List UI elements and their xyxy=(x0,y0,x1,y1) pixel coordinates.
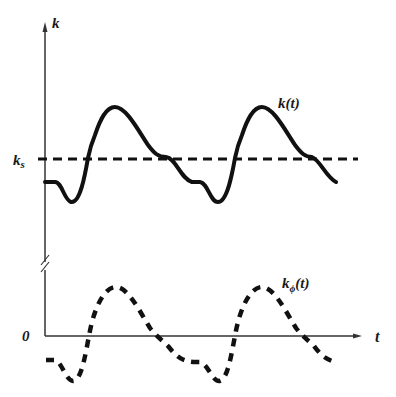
y-axis-arrow xyxy=(43,22,48,32)
k-phi-t-curve xyxy=(46,287,332,381)
k-phi-t-label: kϕ(t) xyxy=(282,275,309,294)
diagram: k ks 0 t k(t) kϕ(t) xyxy=(0,0,396,397)
k-t-curve xyxy=(45,107,336,202)
t-axis-label: t xyxy=(375,328,380,345)
ks-label: ks xyxy=(13,152,25,170)
zero-label: 0 xyxy=(22,328,30,344)
t-axis-arrow xyxy=(353,334,362,339)
k-t-label: k(t) xyxy=(278,95,300,112)
y-axis-label: k xyxy=(52,15,60,31)
